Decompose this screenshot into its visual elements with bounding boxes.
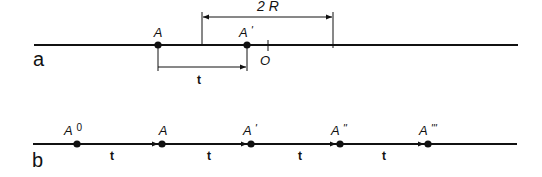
step-t-label-3: t — [298, 149, 302, 163]
step-t-label-1: t — [110, 149, 114, 163]
origin-label: O — [260, 53, 270, 68]
point-a-double-prime — [336, 140, 343, 147]
diagram-canvas: 2 R O A A' t a A0 A A' A'' A''' — [0, 0, 542, 177]
point-a-triple-prime — [424, 140, 431, 147]
point-a-prime-label: A' — [238, 24, 254, 40]
point-a-triple-prime-label: A''' — [418, 122, 438, 138]
step-t-label-4: t — [382, 149, 386, 163]
point-a-prime-label: A' — [242, 122, 258, 138]
panel-b-label: b — [32, 149, 43, 171]
point-a-prime — [243, 41, 250, 48]
step-t-label: t — [197, 73, 201, 87]
point-a-label: A — [153, 25, 163, 40]
point-a-prime — [247, 140, 254, 147]
step-t-label-2: t — [207, 149, 211, 163]
span-2r-label: 2 R — [256, 0, 279, 14]
point-a-label: A — [158, 123, 168, 138]
point-a — [158, 140, 165, 147]
point-a0-label: A0 — [63, 122, 83, 138]
point-a-double-prime-label: A'' — [330, 122, 348, 138]
panel-b: A0 A A' A'' A''' t t t t b — [32, 122, 517, 171]
point-a — [154, 41, 161, 48]
panel-a: 2 R O A A' t a — [33, 0, 518, 87]
point-a0 — [73, 140, 80, 147]
panel-a-label: a — [33, 48, 45, 70]
